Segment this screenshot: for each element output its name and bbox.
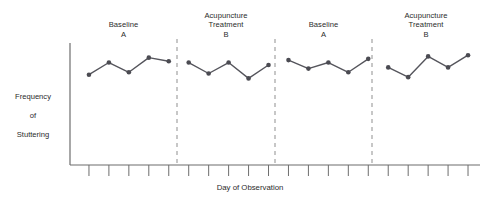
data-point (246, 76, 251, 81)
phase-label-line-1: Acupuncture (186, 11, 266, 20)
phase-label-line-1: Acupuncture (386, 11, 466, 20)
data-point (166, 59, 171, 64)
data-point (406, 75, 411, 80)
data-point (226, 60, 231, 65)
phase-label-line-2: A (284, 30, 364, 39)
data-point (107, 60, 112, 65)
data-point (87, 72, 92, 77)
data-point (386, 65, 391, 70)
data-point (266, 63, 271, 68)
data-point (206, 71, 211, 76)
phase-label-baseline-a-2: BaselineA (284, 20, 364, 39)
phase-label-line-2: Treatment (186, 20, 266, 29)
y-axis-label-line-3: Stuttering (2, 130, 64, 140)
data-point (286, 58, 291, 63)
data-point (326, 60, 331, 65)
x-axis-label: Day of Observation (150, 183, 350, 192)
phase-label-line-3: B (186, 30, 266, 39)
y-axis-label: Frequency of Stuttering (2, 82, 64, 149)
x-axis-ticks (89, 165, 468, 176)
data-point (466, 53, 471, 58)
data-point (127, 70, 132, 75)
single-case-design-chart: BaselineA AcupunctureTreatmentB Baseline… (0, 0, 489, 202)
phase-label-baseline-a-1: BaselineA (84, 20, 164, 39)
data-point (147, 55, 152, 60)
phase-label-line-3: B (386, 30, 466, 39)
phase-line-phase-2 (189, 63, 269, 79)
phase-label-line-2: A (84, 30, 164, 39)
data-point (366, 57, 371, 62)
data-point (346, 70, 351, 75)
y-axis-label-line-2: of (2, 111, 64, 121)
phase-label-treatment-b-1: AcupunctureTreatmentB (186, 11, 266, 39)
y-axis-label-line-1: Frequency (2, 92, 64, 102)
data-point (186, 60, 191, 65)
phase-label-line-1: Baseline (284, 20, 364, 29)
data-point (306, 66, 311, 71)
data-point (446, 65, 451, 70)
phase-label-treatment-b-2: AcupunctureTreatmentB (386, 11, 466, 39)
phase-separator-lines (177, 39, 372, 165)
phase-label-line-2: Treatment (386, 20, 466, 29)
phase-label-line-1: Baseline (84, 20, 164, 29)
data-series-group (87, 53, 471, 81)
data-point (426, 54, 431, 59)
